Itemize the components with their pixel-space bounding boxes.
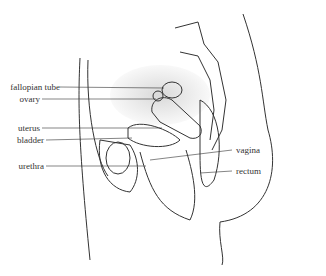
label-vagina: vagina (236, 145, 260, 155)
label-bladder: bladder (0, 135, 44, 145)
label-fallopian-tube: fallopian tube (0, 82, 60, 92)
pelvis-illustration (0, 0, 326, 276)
label-urethra: urethra (0, 161, 44, 171)
label-rectum: rectum (236, 166, 261, 176)
anatomy-diagram: fallopian tube ovary uterus bladder uret… (0, 0, 326, 276)
label-ovary: ovary (0, 94, 40, 104)
label-uterus: uterus (0, 123, 40, 133)
